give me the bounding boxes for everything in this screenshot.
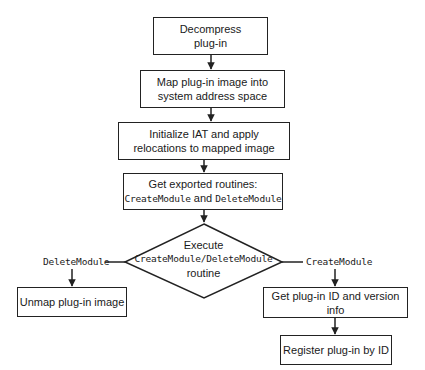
node-register: Register plug-in by ID <box>280 335 392 365</box>
branch-label-create: CreateModule <box>306 256 372 268</box>
node-execute-line3: routine <box>125 266 282 280</box>
joiner-text: and <box>191 192 215 204</box>
branch-label-delete: DeleteModule <box>43 256 109 268</box>
node-get-exported: Get exported routines: CreateModule and … <box>123 173 283 210</box>
node-get-id-label: Get plug-in ID and version info <box>264 289 407 317</box>
node-register-label: Register plug-in by ID <box>283 343 389 357</box>
node-map-line1: Map plug-in image into <box>157 75 268 89</box>
code-create-module: CreateModule <box>125 193 191 204</box>
node-decompress: Decompress plug-in <box>153 17 268 55</box>
node-decompress-line2: plug-in <box>194 36 227 50</box>
node-execute-line1: Execute <box>125 238 282 252</box>
node-decompress-line1: Decompress <box>180 22 242 36</box>
node-map: Map plug-in image into system address sp… <box>140 70 285 108</box>
node-initialize-line2: relocations to mapped image <box>133 141 274 155</box>
node-initialize: Initialize IAT and apply relocations to … <box>118 122 290 160</box>
node-unmap: Unmap plug-in image <box>17 287 127 317</box>
node-get-exported-line2: CreateModule and DeleteModule <box>125 191 282 206</box>
node-map-line2: system address space <box>158 89 267 103</box>
node-unmap-label: Unmap plug-in image <box>20 295 125 309</box>
node-execute: Execute CreateModule/DeleteModule routin… <box>125 238 282 280</box>
node-get-exported-line1: Get exported routines: <box>149 177 258 191</box>
node-get-id: Get plug-in ID and version info <box>263 287 408 318</box>
code-delete-module: DeleteModule <box>215 193 281 204</box>
node-initialize-line1: Initialize IAT and apply <box>149 127 259 141</box>
node-execute-code: CreateModule/DeleteModule <box>125 252 282 266</box>
